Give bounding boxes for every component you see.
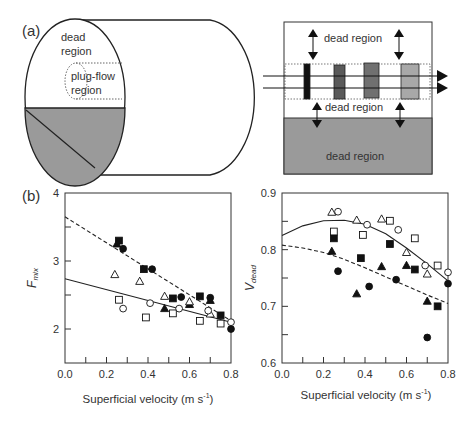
chart-fmix: 0.00.20.40.60.8234 Fmix Superficial velo…	[25, 187, 239, 405]
marker-filled-circle	[335, 268, 342, 275]
marker-open-square	[143, 314, 150, 321]
marker-filled-triangle	[378, 262, 386, 269]
marker-open-triangle	[186, 298, 194, 305]
schematic-bottom-label: dead region	[326, 150, 384, 162]
marker-open-square	[196, 317, 203, 324]
plot-area-vdead	[282, 193, 448, 363]
plot-area-fmix	[65, 193, 231, 363]
marker-open-circle	[422, 262, 429, 269]
schematic-bottom-dead-region	[284, 118, 432, 174]
x-tick-label: 0.0	[57, 368, 72, 380]
marker-open-circle	[335, 208, 342, 215]
marker-open-square	[360, 232, 367, 239]
y-tick-label: 4	[53, 187, 59, 199]
x-tick-label: 0.6	[399, 368, 414, 380]
marker-open-square	[411, 235, 418, 242]
marker-filled-square	[330, 235, 337, 242]
arrowhead-right-2	[437, 82, 448, 94]
schematic-middle-label: dead region	[325, 101, 383, 113]
dashed-fit	[282, 245, 448, 303]
marker-open-circle	[205, 307, 212, 314]
solid-fit	[282, 220, 448, 281]
panel-b-label: (b)	[22, 187, 40, 204]
y-tick-label: 2	[53, 323, 59, 335]
marker-open-square	[116, 296, 123, 303]
marker-filled-circle	[178, 294, 185, 301]
marker-open-triangle	[378, 215, 386, 222]
x-tick-label: 0.8	[223, 368, 238, 380]
marker-open-circle	[120, 305, 127, 312]
marker-open-triangle	[423, 270, 431, 277]
marker-open-circle	[147, 300, 154, 307]
y-tick-label: 3	[53, 255, 59, 267]
y-axis-label-fmix: Fmix	[25, 267, 40, 288]
y-tick-label: 0.7	[261, 300, 276, 312]
marker-open-circle	[445, 269, 452, 276]
marker-open-circle	[364, 221, 371, 228]
marker-filled-square	[140, 266, 147, 273]
marker-filled-triangle	[403, 261, 411, 268]
marker-filled-square	[217, 312, 224, 319]
x-axis-label-vdead: Superficial velocity (m s-1)	[301, 388, 432, 401]
marker-filled-circle	[366, 283, 373, 290]
marker-open-triangle	[111, 270, 119, 277]
marker-filled-circle	[424, 334, 431, 341]
y-axis-label-vdead: Vdead	[243, 265, 258, 291]
marker-open-circle	[395, 226, 402, 233]
marker-filled-square	[196, 293, 203, 300]
marker-open-square	[330, 228, 337, 235]
marker-open-triangle	[353, 216, 361, 223]
tracer-pulse-4	[401, 64, 419, 99]
x-tick-label: 0.2	[316, 368, 331, 380]
y-tick-label: 0.9	[261, 187, 276, 199]
marker-open-square	[387, 217, 394, 224]
y-tick-label: 0.8	[261, 244, 276, 256]
x-tick-label: 0.4	[357, 368, 372, 380]
figure-canvas: (a) dead region plug-flow region	[0, 0, 474, 422]
axis-ticks-vdead: 0.00.20.40.60.80.60.70.80.9	[261, 187, 456, 380]
marker-filled-circle	[149, 266, 156, 273]
axis-ticks-fmix: 0.00.20.40.60.8234	[53, 187, 239, 380]
x-axis-label-fmix: Superficial velocity (m s-1)	[83, 392, 214, 405]
marker-filled-square	[357, 255, 364, 262]
x-tick-label: 0.6	[182, 368, 197, 380]
marker-open-square	[217, 320, 224, 327]
cylinder-dead-label-2: region	[61, 45, 92, 57]
panel-a-label: (a)	[22, 22, 40, 39]
marker-open-triangle	[161, 292, 169, 299]
cylinder-diagram: (a) dead region plug-flow region	[22, 19, 254, 186]
marker-filled-circle	[228, 326, 235, 333]
marker-filled-square	[387, 241, 394, 248]
x-tick-label: 0.4	[140, 368, 155, 380]
y-tick-label: 0.6	[261, 357, 276, 369]
arrowhead-right-1	[437, 70, 448, 82]
marker-filled-square	[411, 266, 418, 273]
marker-open-triangle	[403, 248, 411, 255]
tracer-pulse-2	[334, 65, 345, 99]
x-tick-label: 0.0	[274, 368, 289, 380]
marker-filled-triangle	[423, 297, 431, 304]
marker-open-square	[434, 262, 441, 269]
marker-open-circle	[228, 319, 235, 326]
marker-open-square	[170, 310, 177, 317]
marker-filled-square	[434, 303, 441, 310]
data-points-vdead	[328, 208, 452, 341]
cylinder-dead-label-1: dead	[61, 31, 85, 43]
chart-vdead: 0.00.20.40.60.80.60.70.80.9 Vdead Superf…	[243, 187, 456, 401]
marker-filled-triangle	[328, 247, 336, 254]
x-tick-label: 0.2	[99, 368, 114, 380]
plug-flow-label-1: plug-flow	[71, 70, 115, 82]
plug-flow-label-2: region	[71, 84, 102, 96]
marker-open-circle	[176, 305, 183, 312]
marker-filled-triangle	[353, 290, 361, 297]
tracer-pulse-3	[364, 63, 379, 98]
x-tick-label: 0.8	[440, 368, 455, 380]
schematic-top-label: dead region	[324, 32, 382, 44]
tracer-pulse-1	[304, 64, 310, 99]
marker-filled-circle	[393, 276, 400, 283]
flow-schematic: dead region dead region dead region	[263, 22, 448, 174]
marker-open-triangle	[136, 277, 144, 284]
marker-filled-circle	[445, 280, 452, 287]
marker-filled-square	[170, 295, 177, 302]
